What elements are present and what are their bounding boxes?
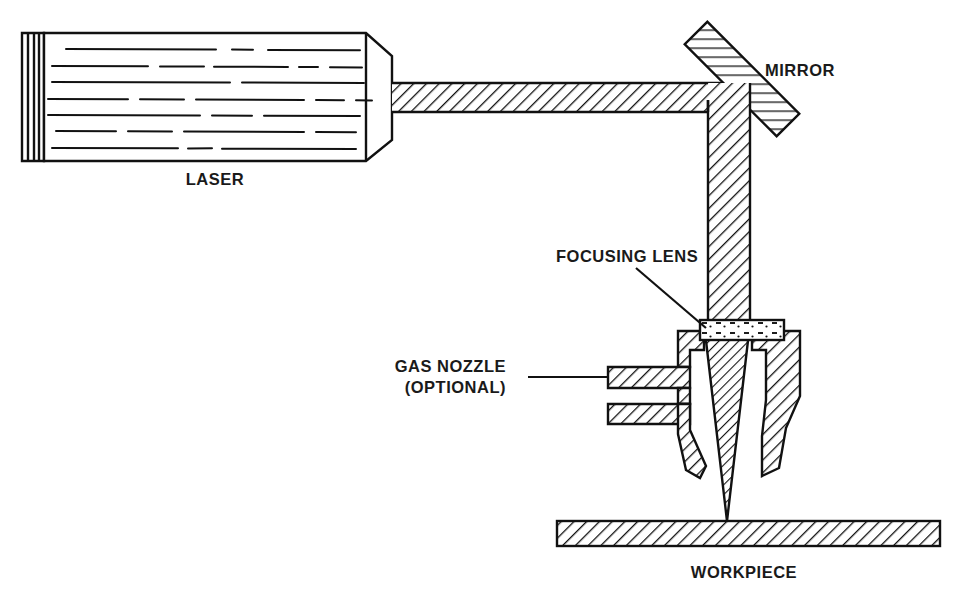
gas-nozzle-label-line1: GAS NOZZLE: [395, 357, 506, 375]
laser-assembly: LASER: [22, 33, 392, 188]
horizontal-beam: [392, 83, 750, 112]
converging-beam-cone: [705, 332, 749, 521]
gas-nozzle-label-line2: (OPTIONAL): [405, 378, 506, 396]
diagram-canvas: LASER MIRROR: [0, 0, 956, 610]
laser-system-diagram: LASER MIRROR: [0, 0, 956, 610]
focusing-lens-label: FOCUSING LENS: [556, 247, 698, 265]
laser-label: LASER: [186, 170, 244, 188]
laser-body: [44, 33, 392, 161]
workpiece-assembly: WORKPIECE: [557, 521, 940, 581]
mirror-label: MIRROR: [765, 61, 835, 79]
focusing-lens-leader: [636, 268, 706, 328]
vertical-beam: [708, 83, 750, 327]
laser-rear-mirror-icon: [22, 33, 44, 161]
workpiece-label: WORKPIECE: [691, 563, 797, 581]
